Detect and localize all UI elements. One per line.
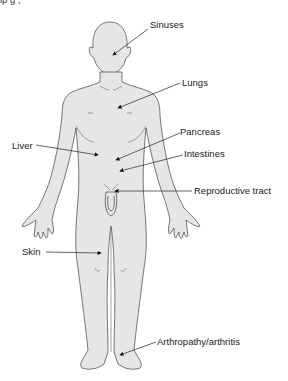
caption-fragment: ip g , bbox=[0, 0, 21, 5]
label-lungs: Lungs bbox=[182, 77, 208, 88]
label-reproductive-tract: Reproductive tract bbox=[194, 185, 271, 196]
label-skin: Skin bbox=[22, 246, 40, 257]
label-liver: Liver bbox=[12, 140, 33, 151]
body-diagram: ip g , bbox=[0, 0, 288, 381]
label-pancreas: Pancreas bbox=[180, 126, 220, 137]
label-sinuses: Sinuses bbox=[150, 19, 184, 30]
label-arthropathy-arthritis: Arthropathy/arthritis bbox=[157, 336, 240, 347]
label-intestines: Intestines bbox=[184, 148, 225, 159]
